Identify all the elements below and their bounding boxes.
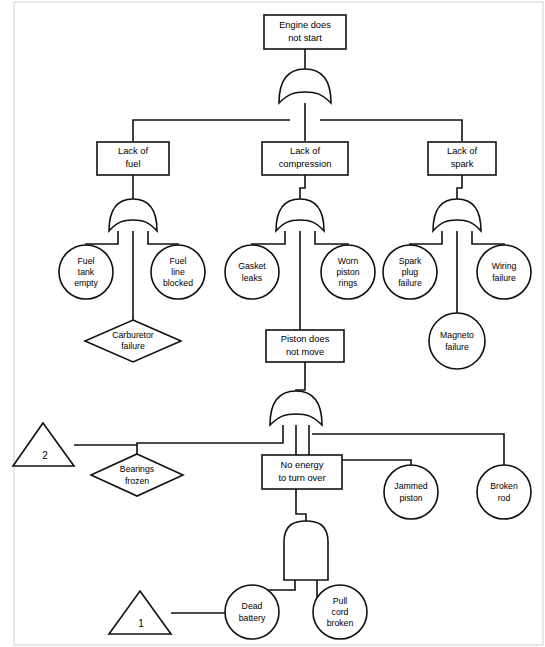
node-label-line: Carburetor xyxy=(112,330,154,340)
node-label-line: not move xyxy=(286,347,324,357)
node-label-line: fuel xyxy=(126,159,141,169)
connector-compression-right-worn xyxy=(315,231,348,245)
node-label-line: Lack of xyxy=(290,146,320,156)
node-label-line: Broken xyxy=(490,481,518,491)
connector-spark-left-plug xyxy=(410,231,442,245)
node-piston-does-not-move[interactable]: Piston does not move xyxy=(266,330,344,362)
node-label-line: Magneto xyxy=(440,330,474,340)
node-label-line: cord xyxy=(332,607,349,617)
node-label-line: frozen xyxy=(125,476,149,486)
node-label-line: Worn xyxy=(338,256,359,266)
node-label-line: compression xyxy=(279,159,332,169)
node-label-line: spark xyxy=(451,159,474,169)
node-fuel-line-blocked[interactable]: Fuel line blocked xyxy=(151,245,205,299)
node-spark-plug-failure[interactable]: Spark plug failure xyxy=(383,245,437,299)
node-gasket-leaks[interactable]: Gasket leaks xyxy=(225,245,279,299)
node-fuel-tank-empty[interactable]: Fuel tank empty xyxy=(59,245,113,299)
node-label-line: Lack of xyxy=(118,146,148,156)
node-pull-cord-broken[interactable]: Pull cord broken xyxy=(313,585,367,639)
connector-compression-left-gasket xyxy=(252,231,285,245)
node-label-line: Bearings xyxy=(120,464,155,474)
transfer-label: 2 xyxy=(42,450,48,461)
connector-piston-in-bearings xyxy=(137,425,283,454)
node-label-line: failure xyxy=(492,273,516,283)
node-label-line: piston xyxy=(399,493,422,503)
node-label-line: Fuel xyxy=(170,256,187,266)
node-label-line: to turn over xyxy=(278,473,325,483)
node-carburetor-failure[interactable]: Carburetor failure xyxy=(85,320,181,362)
node-dead-battery[interactable]: Dead battery xyxy=(225,585,279,639)
connector-compression-to-gate xyxy=(300,175,305,199)
node-label-line: No energy xyxy=(281,460,324,470)
fault-tree-diagram: Engine does not start Lack of fuel Lack … xyxy=(0,0,545,647)
node-label-line: leaks xyxy=(242,273,263,283)
node-label-line: Fuel xyxy=(78,256,95,266)
transfer-in-symbol-1[interactable]: 1 xyxy=(109,591,171,634)
node-label-line: Wiring xyxy=(492,261,517,271)
node-label-line: piston xyxy=(336,267,359,277)
node-label-line: Spark xyxy=(399,256,422,266)
connector-fuel-left-tank xyxy=(86,231,118,245)
transfer-label: 1 xyxy=(138,618,144,629)
node-engine-does-not-start[interactable]: Engine does not start xyxy=(264,15,346,49)
node-lack-of-compression[interactable]: Lack of compression xyxy=(262,142,348,175)
node-label-line: tank xyxy=(78,267,95,277)
node-magneto-failure[interactable]: Magneto failure xyxy=(429,313,485,369)
connector-gate-top-right xyxy=(320,120,462,141)
node-label-line: empty xyxy=(74,278,98,288)
node-bearings-frozen[interactable]: Bearings frozen xyxy=(91,454,183,496)
connector-piston-to-gate xyxy=(296,362,305,391)
node-label-line: Dead xyxy=(242,601,263,611)
node-broken-rod[interactable]: Broken rod xyxy=(477,465,531,519)
node-label-line: broken xyxy=(327,618,354,628)
node-wiring-failure[interactable]: Wiring failure xyxy=(477,245,531,299)
node-label-line: rod xyxy=(498,493,511,503)
node-label-line: Jammed xyxy=(394,481,427,491)
node-label-line: Lack of xyxy=(447,146,477,156)
node-label-line: Engine does xyxy=(279,20,331,30)
node-lack-of-spark[interactable]: Lack of spark xyxy=(428,142,496,175)
node-label-line: failure xyxy=(398,278,422,288)
node-no-energy-to-turn-over[interactable]: No energy to turn over xyxy=(262,455,342,489)
connector-spark-right-wiring xyxy=(472,231,504,245)
node-label-line: line xyxy=(171,267,185,277)
node-lack-of-fuel[interactable]: Lack of fuel xyxy=(97,142,169,175)
node-label-line: rings xyxy=(339,278,358,288)
node-label-line: plug xyxy=(402,267,419,277)
connector-fuel-right-line xyxy=(148,231,178,245)
node-label-line: failure xyxy=(121,341,145,351)
transfer-in-symbol-2[interactable]: 2 xyxy=(13,423,74,466)
and-gate-no-energy-to-turn-over xyxy=(284,521,328,580)
fault-tree-canvas: Engine does not start Lack of fuel Lack … xyxy=(0,0,545,647)
node-label-line: blocked xyxy=(163,278,193,288)
node-label-line: Gasket xyxy=(238,261,266,271)
or-gate-lack-of-spark xyxy=(433,199,481,231)
node-jammed-piston[interactable]: Jammed piston xyxy=(384,465,438,519)
node-label-line: failure xyxy=(445,342,469,352)
connector-spark-to-gate xyxy=(457,175,462,199)
or-gate-piston-does-not-move xyxy=(270,391,322,425)
node-label-line: not start xyxy=(288,33,322,43)
node-label-line: Pull xyxy=(333,596,348,606)
connector-gate-top-left xyxy=(133,120,290,141)
connector-noenergy-to-gate xyxy=(296,489,306,521)
node-label-line: Piston does xyxy=(281,334,330,344)
node-label-line: battery xyxy=(239,613,266,623)
or-gate-top-event xyxy=(279,69,331,103)
or-gate-lack-of-fuel xyxy=(109,199,157,231)
or-gate-lack-of-compression xyxy=(276,199,324,231)
node-worn-piston-rings[interactable]: Worn piston rings xyxy=(321,245,375,299)
